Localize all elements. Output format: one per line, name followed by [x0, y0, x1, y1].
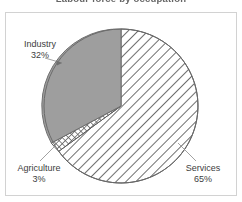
leader-line-agriculture [40, 146, 55, 161]
pie-label-services-name: Services [172, 163, 234, 174]
pie-label-industry-value: 32% [12, 50, 68, 61]
pie-label-agriculture: Agriculture 3% [4, 163, 74, 184]
pie-chart-figure: Labour force by occupation [0, 0, 242, 202]
pie-label-industry: Industry 32% [12, 39, 68, 60]
pie-label-agriculture-name: Agriculture [4, 163, 74, 174]
pie-label-industry-name: Industry [12, 39, 68, 50]
pie-label-agriculture-value: 3% [4, 174, 74, 185]
pie-label-services: Services 65% [172, 163, 234, 184]
pie-label-services-value: 65% [172, 174, 234, 185]
